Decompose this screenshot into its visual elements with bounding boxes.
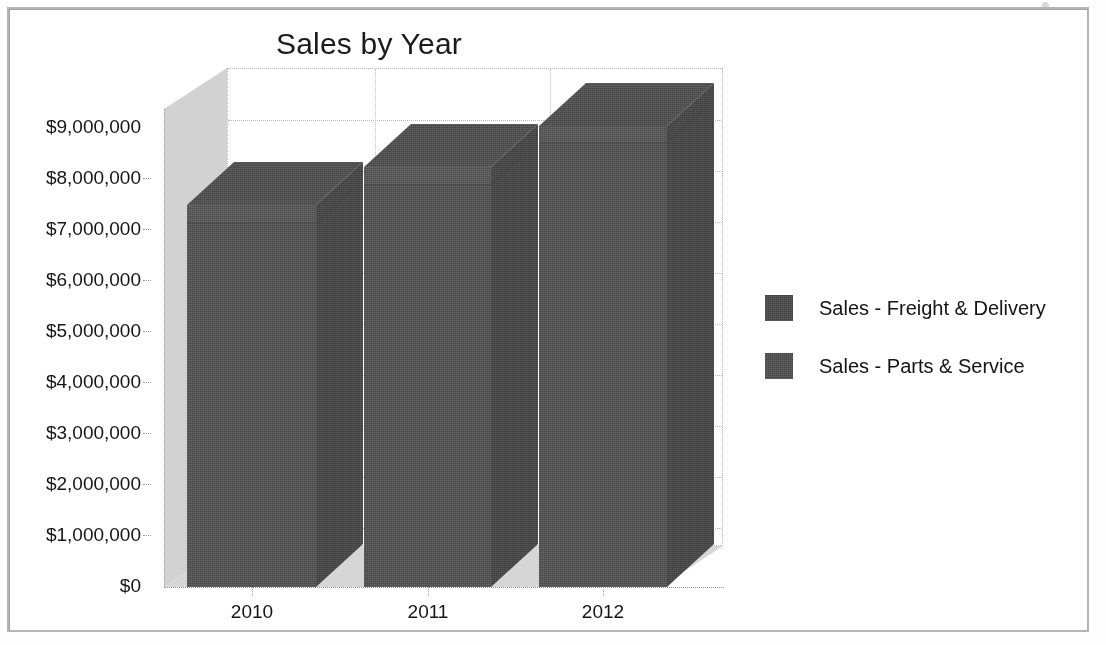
bar-2012-segment-freight-delivery [539, 126, 667, 142]
bar-2010-side-face [316, 162, 363, 587]
y-tick-label-5000000: $5,000,000 [46, 320, 141, 342]
y-tick-mark-8000000 [143, 178, 151, 179]
y-tick-mark-2000000 [143, 484, 151, 485]
bar-2012-segment-divider [539, 142, 667, 143]
bar-2010-segment-parts-service [187, 222, 316, 587]
y-tick-mark-3000000 [143, 433, 151, 434]
y-axis-line [164, 109, 165, 587]
y-tick-mark-7000000 [143, 229, 151, 230]
x-tick-label-2012: 2012 [582, 601, 624, 623]
legend-swatch-freight-delivery [765, 295, 793, 321]
bar-2010-segment-freight-delivery [187, 205, 316, 222]
y-tick-mark-6000000 [143, 280, 151, 281]
y-axis-labels: $9,000,000 $8,000,000 $7,000,000 $6,000,… [23, 9, 141, 634]
x-tick-label-2010: 2010 [231, 601, 273, 623]
bar-2011-segment-freight-delivery [364, 167, 491, 184]
x-axis-line [164, 587, 724, 588]
legend-label-freight-delivery: Sales - Freight & Delivery [819, 297, 1046, 320]
y-tick-mark-1000000 [143, 535, 151, 536]
y-tick-label-1000000: $1,000,000 [46, 524, 141, 546]
y-tick-mark-4000000 [143, 382, 151, 383]
bar-2012-side-face [667, 83, 714, 587]
y-tick-label-8000000: $8,000,000 [46, 167, 141, 189]
bar-2011-segment-divider [364, 184, 491, 185]
chart-frame: Sales by Year [7, 7, 1089, 632]
bar-2011-side-face [491, 124, 538, 587]
y-tick-label-2000000: $2,000,000 [46, 473, 141, 495]
bar-2010-segment-divider [187, 222, 316, 223]
bar-2011-segment-parts-service [364, 184, 491, 587]
x-tick-mark-2011 [428, 587, 429, 596]
bar-2012-segment-parts-service [539, 142, 667, 587]
y-tick-label-7000000: $7,000,000 [46, 218, 141, 240]
legend-item-freight-delivery[interactable]: Sales - Freight & Delivery [765, 279, 1095, 337]
x-tick-mark-2012 [603, 587, 604, 596]
y-tick-label-3000000: $3,000,000 [46, 422, 141, 444]
y-tick-label-0: $0 [120, 575, 141, 597]
legend-label-parts-service: Sales - Parts & Service [819, 355, 1025, 378]
y-tick-label-4000000: $4,000,000 [46, 371, 141, 393]
legend-swatch-parts-service [765, 353, 793, 379]
y-tick-label-6000000: $6,000,000 [46, 269, 141, 291]
y-tick-label-9000000: $9,000,000 [46, 116, 141, 138]
legend-item-parts-service[interactable]: Sales - Parts & Service [765, 337, 1095, 395]
plot-area: $9,000,000 $8,000,000 $7,000,000 $6,000,… [9, 9, 769, 634]
chart-legend: Sales - Freight & Delivery Sales - Parts… [765, 279, 1095, 395]
scanned-page: Sales by Year [0, 0, 1106, 645]
x-tick-label-2011: 2011 [408, 601, 449, 623]
x-tick-mark-2010 [252, 587, 253, 596]
y-tick-mark-5000000 [143, 331, 151, 332]
